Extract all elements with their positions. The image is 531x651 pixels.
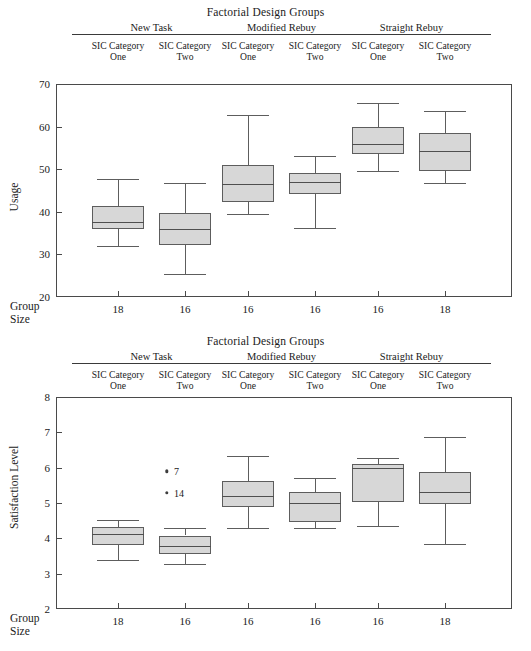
y-tick-mark: [56, 212, 62, 213]
panel-satisfaction: Factorial Design Groups New TaskModified…: [0, 320, 531, 651]
x-tick-label: 16: [243, 615, 254, 627]
chart-title-satisfaction: Factorial Design Groups: [0, 335, 531, 347]
x-tick-label: 16: [310, 615, 321, 627]
y-tick-mark: [56, 503, 62, 504]
whisker-upper: [445, 111, 446, 134]
y-tick-label: 70: [22, 78, 50, 90]
x-tick-mark: [248, 603, 249, 609]
factor-level-2: SIC CategoryTwo: [152, 40, 218, 62]
whisker-upper: [378, 103, 379, 127]
x-tick-mark: [378, 603, 379, 609]
whisker-lower: [445, 171, 446, 183]
box-iqr: [419, 133, 471, 170]
box-iqr: [352, 127, 404, 154]
median-line: [289, 182, 341, 183]
whisker-lower: [248, 202, 249, 214]
cap-lower: [294, 228, 336, 229]
factor-level-line1: SIC Category: [152, 369, 218, 380]
x-tick-label: 18: [440, 615, 451, 627]
cap-upper: [424, 111, 466, 112]
chart-title-usage: Factorial Design Groups: [0, 6, 531, 18]
cap-upper: [227, 115, 269, 116]
median-line: [222, 496, 274, 497]
factor-level-line2: One: [85, 380, 151, 391]
group-size-label-satisfaction: GroupSize: [10, 612, 39, 638]
x-tick-label: 16: [180, 303, 191, 315]
whisker-upper: [118, 179, 119, 206]
factor-level-line1: SIC Category: [345, 369, 411, 380]
x-tick-mark: [378, 291, 379, 297]
y-tick-label: 40: [22, 206, 50, 218]
cap-lower: [164, 274, 206, 275]
factor-level-2: SIC CategoryTwo: [152, 369, 218, 391]
cap-lower: [357, 526, 399, 527]
y-tick-label: 7: [22, 426, 50, 438]
whisker-lower: [315, 194, 316, 228]
whisker-lower: [378, 154, 379, 171]
x-tick-mark: [315, 603, 316, 609]
factor-level-line1: SIC Category: [85, 369, 151, 380]
cap-lower: [164, 564, 206, 565]
whisker-upper: [185, 528, 186, 536]
factor-level-1: SIC CategoryOne: [85, 369, 151, 391]
y-tick-label: 6: [22, 462, 50, 474]
y-tick-mark: [56, 468, 62, 469]
y-tick-mark: [56, 574, 62, 575]
whisker-upper: [315, 478, 316, 493]
factor-level-4: SIC CategoryTwo: [282, 40, 348, 62]
x-tick-mark: [185, 291, 186, 297]
median-line: [352, 468, 404, 469]
factor-rule: [332, 34, 491, 35]
factor-level-3: SIC CategoryOne: [215, 40, 281, 62]
factor-level-line2: Two: [152, 51, 218, 62]
y-tick-label: 3: [22, 568, 50, 580]
factor-level-line2: One: [85, 51, 151, 62]
y-tick-mark: [56, 127, 62, 128]
cap-upper: [164, 183, 206, 184]
median-line: [289, 503, 341, 504]
group-size-line1: Group: [10, 612, 39, 625]
y-tick-label: 50: [22, 163, 50, 175]
cap-upper: [357, 103, 399, 104]
y-tick-mark: [56, 169, 62, 170]
x-tick-label: 16: [310, 303, 321, 315]
factor-level-6: SIC CategoryTwo: [412, 369, 478, 391]
y-axis-title-satisfaction: Satisfaction Level: [8, 489, 20, 529]
factor-group-3: Straight Rebuy: [332, 351, 491, 364]
cap-upper: [97, 179, 139, 180]
cap-lower: [424, 183, 466, 184]
median-line: [159, 229, 211, 230]
factor-level-line2: Two: [282, 380, 348, 391]
factor-level-line1: SIC Category: [282, 369, 348, 380]
whisker-upper: [118, 520, 119, 527]
cap-upper: [97, 520, 139, 521]
factor-level-line2: One: [345, 51, 411, 62]
cap-upper: [164, 528, 206, 529]
boxplot-figure: Factorial Design Groups New TaskModified…: [0, 0, 531, 651]
factor-level-3: SIC CategoryOne: [215, 369, 281, 391]
box-iqr: [92, 527, 144, 545]
cap-lower: [227, 528, 269, 529]
factor-name: Straight Rebuy: [332, 22, 491, 34]
whisker-lower: [248, 507, 249, 528]
median-line: [92, 222, 144, 223]
factor-level-6: SIC CategoryTwo: [412, 40, 478, 62]
y-axis-title-usage: Usage: [8, 177, 20, 217]
factor-level-line2: Two: [152, 380, 218, 391]
box-iqr: [222, 165, 274, 202]
factor-level-line1: SIC Category: [345, 40, 411, 51]
cap-lower: [357, 171, 399, 172]
y-tick-label: 4: [22, 532, 50, 544]
y-tick-label: 5: [22, 497, 50, 509]
outlier-label: 7: [174, 466, 179, 477]
median-line: [92, 534, 144, 535]
box-iqr: [92, 206, 144, 229]
whisker-upper: [248, 115, 249, 164]
box-iqr: [222, 481, 274, 506]
cap-lower: [294, 528, 336, 529]
y-tick-label: 60: [22, 121, 50, 133]
cap-lower: [97, 560, 139, 561]
plot-frame-usage: [56, 84, 512, 297]
factor-level-line2: Two: [412, 380, 478, 391]
x-tick-label: 18: [440, 303, 451, 315]
